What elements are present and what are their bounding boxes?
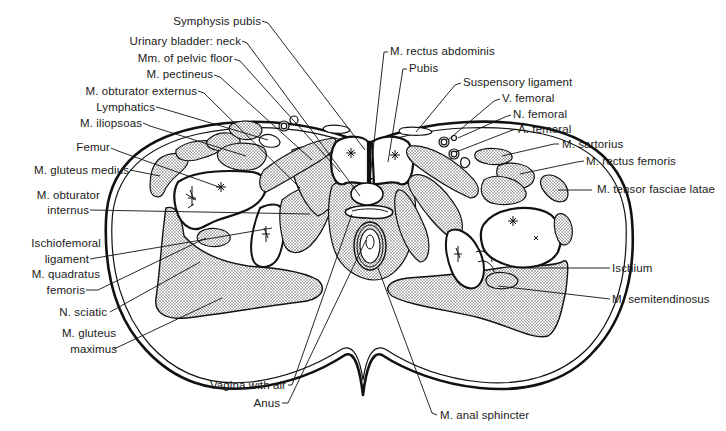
label-m-rectus-femoris: M. rectus femoris xyxy=(586,155,676,168)
label-ischiofemoral-ligament-2: ligament xyxy=(0,253,89,266)
label-symphysis-pubis: Symphysis pubis xyxy=(160,15,261,28)
label-suspensory-ligament: Suspensory ligament xyxy=(463,76,572,89)
label-mm-pelvic-floor: Mm. of pelvic floor xyxy=(110,52,233,65)
label-m-iliopsoas: M. iliopsoas xyxy=(40,117,142,130)
suspensory-ligament-shape xyxy=(399,127,432,135)
label-n-femoral: N. femoral xyxy=(513,108,567,121)
label-pubis: Pubis xyxy=(409,62,438,75)
label-anus: Anus xyxy=(200,397,280,410)
m-tensor-fasciae-latae-right xyxy=(541,175,568,202)
label-m-rectus-abdominis: M. rectus abdominis xyxy=(390,45,495,58)
label-m-gluteus-maximus-2: maximus xyxy=(0,343,117,356)
label-urinary-bladder-neck: Urinary bladder: neck xyxy=(110,35,241,48)
label-lymphatics: Lymphatics xyxy=(80,101,155,114)
lymph-node-right xyxy=(461,158,470,168)
label-m-gluteus-maximus-1: M. gluteus xyxy=(0,327,116,340)
label-m-anal-sphincter: M. anal sphincter xyxy=(440,409,529,422)
anatomy-drawing xyxy=(0,0,726,431)
label-m-obturator-internus-1: M. obturator xyxy=(10,189,100,202)
label-v-femoral: V. femoral xyxy=(502,92,554,105)
anal-canal xyxy=(354,222,386,270)
label-n-sciatic: N. sciatic xyxy=(0,306,107,319)
label-m-quadratus-femoris-1: M. quadratus xyxy=(0,268,100,281)
label-m-tensor-fasciae-latae: M. tensor fasciae latae xyxy=(597,183,715,196)
label-m-semitendinosus: M. semitendinosus xyxy=(612,293,710,306)
label-m-quadratus-femoris-2: femoris xyxy=(0,284,85,297)
label-ischium: Ischium xyxy=(612,262,652,275)
vagina xyxy=(345,206,393,219)
pubis-left xyxy=(331,137,368,185)
femur-right xyxy=(481,208,561,267)
pelvis-cross-section-diagram: Symphysis pubis Urinary bladder: neck Mm… xyxy=(0,0,726,431)
label-vagina-with-air: Vagina with air xyxy=(160,379,286,392)
urinary-bladder-neck xyxy=(351,183,383,205)
suspensory-ligament-shape-left xyxy=(323,125,350,133)
label-m-obturator-internus-2: internus xyxy=(10,204,89,217)
femur-left xyxy=(174,171,266,229)
label-m-pectineus: M. pectineus xyxy=(110,68,213,81)
label-femur: Femur xyxy=(60,141,110,154)
m-sartorius-right xyxy=(475,149,512,165)
pubis-right xyxy=(372,137,413,185)
anus-lumen xyxy=(366,235,374,249)
label-m-sartorius: M. sartorius xyxy=(562,138,623,151)
label-ischiofemoral-ligament-1: Ischiofemoral xyxy=(0,237,101,250)
label-a-femoral: A. femoral xyxy=(518,123,571,136)
lymphatics-left xyxy=(259,134,280,147)
label-m-gluteus-medius: M. gluteus medius xyxy=(10,164,129,177)
label-m-obturator-externus: M. obturator externus xyxy=(50,85,197,98)
